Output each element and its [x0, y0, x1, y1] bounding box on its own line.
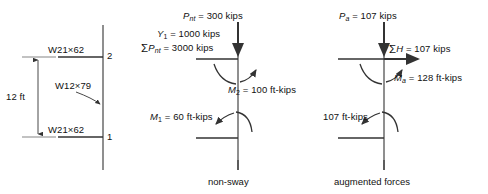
pnt-value: 300 kips [207, 10, 243, 21]
pa-value: 107 kips [361, 10, 397, 21]
ma-symbol: M [394, 72, 402, 83]
label-pnt-top: Pnt = 300 kips [183, 10, 243, 24]
m1-symbol: M [150, 111, 158, 122]
dimension-value: 12 ft [6, 91, 25, 102]
caption-non-sway: non-sway [208, 176, 249, 187]
y1-value: 1000 kips [179, 28, 221, 39]
pnt-subscript: nt [189, 15, 195, 22]
label-height-dimension: 12 ft [6, 91, 25, 102]
m2-value: 100 ft-kips [251, 84, 296, 95]
label-sum-h: ΣH = 107 kips [389, 43, 451, 55]
label-joint-1: 1 [107, 131, 112, 142]
column-leader-arrow [76, 92, 100, 104]
pa-subscript: a [345, 15, 349, 22]
sum-h-value: 107 kips [414, 43, 450, 54]
sum-h-symbol: H [396, 43, 403, 54]
label-top-beam: W21×62 [48, 44, 84, 55]
label-y1: Y1 = 1000 kips [157, 28, 220, 42]
equals-sign: = [163, 42, 169, 53]
joint-top-number: 2 [107, 50, 112, 61]
sum-pnt-value: 3000 kips [172, 42, 214, 53]
column-designation: W12×79 [55, 80, 91, 91]
m2-symbol: M [228, 84, 236, 95]
label-joint-2: 2 [107, 50, 112, 61]
ma-value: 128 ft-kips [417, 72, 462, 83]
equals-sign: = [170, 28, 176, 39]
label-m2: M2 = 100 ft-kips [228, 84, 296, 98]
label-pa-top: Pa = 107 kips [339, 10, 397, 24]
top-beam-designation: W21×62 [48, 44, 84, 55]
equals-sign: = [198, 10, 204, 21]
moment-arc-m1-left [216, 113, 234, 124]
ma-subscript: a [402, 77, 406, 84]
m1-subscript: 1 [158, 116, 162, 123]
m1-value: 60 ft-kips [173, 111, 213, 122]
label-sum-pnt: ΣPnt = 3000 kips [141, 42, 213, 56]
equals-sign: = [165, 111, 171, 122]
bottom-beam-designation: W21×62 [48, 124, 84, 135]
caption-augmented-forces: augmented forces [334, 176, 410, 187]
moment-arc-ma-left [360, 64, 382, 84]
figure-canvas: W21×62 W12×79 W21×62 12 ft 2 1 Pnt = 300… [0, 0, 488, 194]
m2-subscript: 2 [236, 89, 240, 96]
moment-arc-m2-right [240, 70, 256, 82]
equals-sign: = [352, 10, 358, 21]
y1-subscript: 1 [163, 33, 167, 40]
label-bottom-beam: W21×62 [48, 124, 84, 135]
joint-bottom-number: 1 [107, 131, 112, 142]
equals-sign: = [243, 84, 249, 95]
caption-text: augmented forces [334, 176, 410, 187]
bottom-moment-value: 107 ft-kips [323, 111, 368, 122]
label-ma: Ma = 128 ft-kips [394, 72, 462, 86]
label-m1: M1 = 60 ft-kips [150, 111, 213, 125]
equals-sign: = [409, 72, 415, 83]
label-bottom-moment: 107 ft-kips [323, 111, 368, 122]
moment-arc-m2-left [214, 64, 236, 84]
sum-pnt-subscript: nt [155, 47, 161, 54]
label-column: W12×79 [55, 80, 91, 91]
caption-text: non-sway [208, 176, 249, 187]
equals-sign: = [406, 43, 412, 54]
